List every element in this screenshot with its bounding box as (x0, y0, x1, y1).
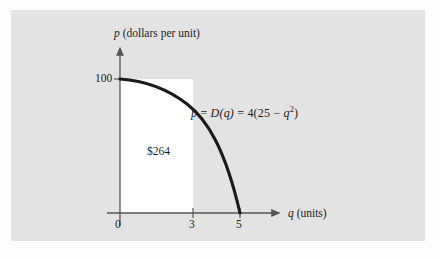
y-axis-label-unit: (dollars per unit) (120, 27, 200, 39)
x-axis-label: q (units) (288, 208, 327, 220)
figure-screenshot: p (dollars per unit) q (units) 100 0 3 5… (0, 0, 440, 259)
equation-expr-close: ) (294, 106, 298, 120)
x-axis-label-unit: (units) (294, 207, 327, 219)
expenditure-region-label: $264 (147, 146, 170, 158)
x-tick-label-0: 0 (115, 219, 121, 231)
equation-expr-open: 4(25 (247, 106, 273, 120)
x-tick-label-5: 5 (236, 219, 242, 231)
y-tick-label-100: 100 (95, 73, 112, 85)
equation-equals-2: = (234, 106, 247, 120)
figure-panel: p (dollars per unit) q (units) 100 0 3 5… (11, 10, 425, 241)
demand-curve-plot (11, 10, 425, 241)
y-axis-label: p (dollars per unit) (114, 28, 200, 40)
equation-minus: − (273, 106, 283, 120)
equation-equals-1: = (197, 106, 210, 120)
equation-q-arg: (q) (219, 106, 234, 120)
x-tick-label-3: 3 (189, 219, 195, 231)
curve-equation-label: p = D(q) = 4(25 − q2) (191, 107, 298, 119)
